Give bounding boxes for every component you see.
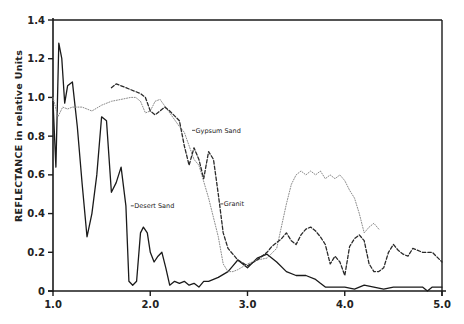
series-layer: [53, 43, 442, 291]
curve-label-desert-sand: Desert Sand: [134, 202, 174, 210]
x-tick-label: 3.0: [239, 299, 257, 310]
y-tick-label: 0.8: [27, 131, 45, 142]
x-axis-ticks: 1.02.03.04.05.0: [44, 291, 451, 310]
curve-label-granit: Granit: [224, 200, 245, 208]
y-axis-title: REFLECTANCE in relative Units: [13, 50, 24, 222]
y-tick-label: 1.2: [27, 53, 45, 64]
x-tick-label: 4.0: [336, 299, 354, 310]
y-tick-label: 1.4: [27, 15, 45, 26]
y-tick-label: 0.2: [27, 247, 45, 258]
plot-frame: [48, 18, 446, 296]
x-tick-label: 2.0: [141, 299, 159, 310]
x-tick-label: 1.0: [44, 299, 62, 310]
y-tick-label: 1.0: [27, 92, 45, 103]
series-desert-sand: [53, 43, 442, 291]
series-gypsum-sand: [53, 97, 379, 271]
x-tick-label: 5.0: [433, 299, 451, 310]
y-axis-ticks: 00.20.40.60.81.01.21.4: [27, 15, 53, 297]
y-tick-label: 0.6: [27, 169, 45, 180]
reflectance-chart: 00.20.40.60.81.01.21.4 1.02.03.04.05.0 R…: [0, 0, 464, 324]
curve-labels: Desert SandGypsum SandGranit: [131, 127, 245, 210]
y-tick-label: 0.4: [27, 208, 45, 219]
y-tick-label: 0: [38, 286, 45, 297]
curve-label-gypsum-sand: Gypsum Sand: [196, 127, 241, 135]
